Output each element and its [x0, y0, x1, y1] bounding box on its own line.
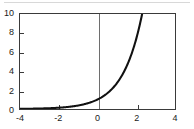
x-tick-label: -4 — [10, 114, 30, 123]
y-tick-label: 10 — [0, 9, 14, 18]
x-tick-label: 2 — [127, 114, 147, 123]
scan-artifact-top — [4, 2, 190, 3]
x-tick-label: 4 — [165, 114, 185, 123]
chart-screenshot: 10 8 6 4 2 0 -4 -2 0 2 4 SAM0186-1Y — [0, 0, 194, 129]
y-tick-label: 2 — [0, 87, 14, 96]
y-tick-label: 6 — [0, 48, 14, 57]
plot-area — [19, 13, 176, 110]
x-tick-label: -2 — [48, 114, 68, 123]
exponential-curve — [20, 14, 175, 109]
y-tick-label: 4 — [0, 67, 14, 76]
y-tick-label: 8 — [0, 28, 14, 37]
x-tick-label: 0 — [88, 114, 108, 123]
